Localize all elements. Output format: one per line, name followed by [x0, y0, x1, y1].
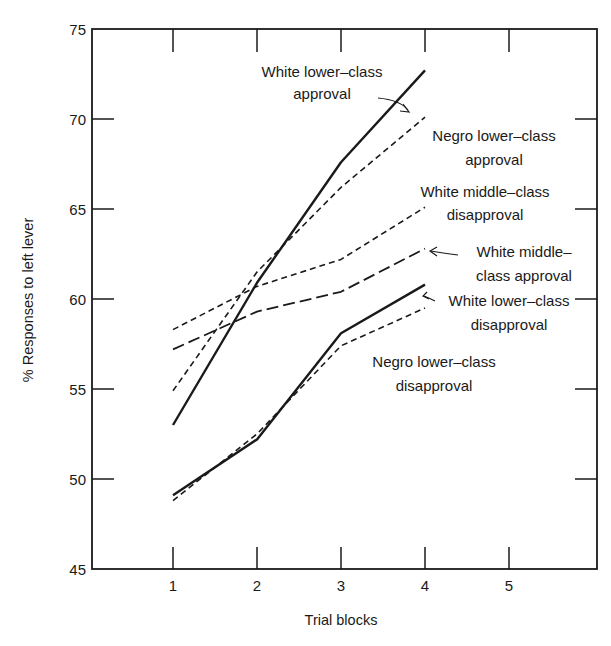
series-annotation-label: Negro lower–class	[432, 127, 555, 144]
series-line-white-middle-class-approval	[173, 249, 425, 350]
x-tick-label: 1	[169, 577, 177, 594]
series-annotation-label: class approval	[476, 267, 572, 284]
series-line-white-lower-class-disapproval	[173, 285, 425, 496]
series-annotation-label: approval	[293, 85, 351, 102]
series-annotation-label: disapproval	[396, 377, 473, 394]
x-tick-label: 2	[253, 577, 261, 594]
y-tick-label: 45	[69, 561, 86, 578]
series-line-white-lower-class-approval	[173, 70, 425, 425]
series-annotation-label: White middle–	[476, 243, 572, 260]
series-layer	[173, 70, 425, 500]
series-line-negro-lower-class-approval	[173, 117, 425, 391]
tick-labels: 1234545505560657075	[69, 21, 513, 594]
series-annotation-label: White middle–class	[420, 183, 549, 200]
x-tick-label: 4	[421, 577, 429, 594]
series-annotation-label: White lower–class	[449, 292, 570, 309]
y-axis-title: % Responses to left lever	[20, 218, 36, 383]
arrowhead-icon	[423, 292, 429, 299]
x-axis-title: Trial blocks	[305, 612, 378, 628]
arrowhead-icon	[400, 104, 409, 112]
y-tick-label: 65	[69, 201, 86, 218]
series-annotation-label: approval	[465, 151, 523, 168]
y-tick-label: 50	[69, 471, 86, 488]
y-tick-label: 75	[69, 21, 86, 38]
series-annotation-label: disapproval	[471, 316, 548, 333]
line-chart: 1234545505560657075 White lower–classapp…	[0, 0, 611, 646]
y-tick-label: 55	[69, 381, 86, 398]
y-tick-label: 70	[69, 111, 86, 128]
series-annotation-label: White lower–class	[262, 63, 383, 80]
y-tick-label: 60	[69, 291, 86, 308]
x-tick-label: 5	[505, 577, 513, 594]
x-tick-label: 3	[337, 577, 345, 594]
series-annotation-label: disapproval	[447, 206, 524, 223]
annotation-layer: White lower–classapprovalNegro lower–cla…	[262, 63, 573, 394]
series-annotation-label: Negro lower–class	[372, 353, 495, 370]
